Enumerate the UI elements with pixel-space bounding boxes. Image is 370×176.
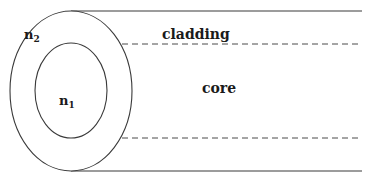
fiber-diagram: n2 n1 cladding core: [0, 0, 370, 176]
cladding-label: cladding: [162, 26, 230, 42]
core-label: core: [202, 80, 236, 96]
